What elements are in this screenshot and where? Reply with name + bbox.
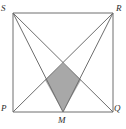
vertex-label-q: Q (114, 104, 121, 113)
vertex-label-s: S (1, 4, 6, 13)
segment-SM-line (13, 13, 63, 112)
vertex-label-r: R (116, 4, 122, 13)
segment-RM-line (63, 13, 113, 112)
geometry-canvas (0, 0, 126, 129)
vertex-label-p: P (1, 104, 7, 113)
vertex-label-m: M (58, 116, 66, 125)
geometry-figure: S R P Q M (0, 0, 126, 129)
